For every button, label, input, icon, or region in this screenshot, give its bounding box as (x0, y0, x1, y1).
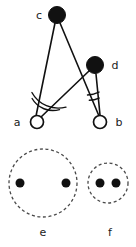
geometry-figure-canvas: c d a b e f (0, 0, 136, 247)
label-c: c (36, 9, 42, 22)
label-b: b (116, 116, 123, 129)
dashed-group-f: f (88, 163, 128, 239)
node-d (87, 57, 104, 74)
dashed-group-e: e (9, 149, 77, 239)
figure-root: c d a b e f (0, 0, 136, 247)
angle-arc-a-outer (32, 93, 66, 109)
dot-e-left (16, 179, 25, 188)
label-e: e (40, 226, 47, 239)
dashed-circle-f (88, 163, 128, 203)
edge-c-a (36, 23, 55, 116)
label-a: a (14, 116, 21, 129)
dot-f-left (96, 179, 105, 188)
dot-f-right (112, 179, 121, 188)
dot-e-right (62, 179, 71, 188)
label-f: f (108, 226, 113, 239)
node-group (31, 7, 107, 129)
node-a (31, 116, 44, 129)
label-d: d (112, 59, 119, 72)
node-c (49, 7, 66, 24)
node-b (94, 116, 107, 129)
top-label-group: c d a b (14, 9, 123, 129)
